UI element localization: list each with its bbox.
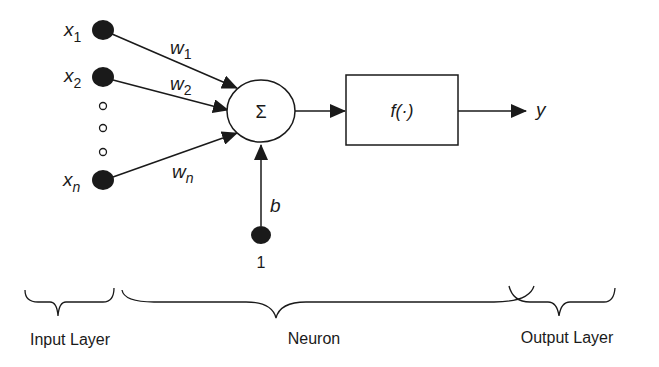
section-label-output: Output Layer [521,329,614,346]
ellipsis-dot [100,125,107,132]
ellipsis-dot [100,103,107,110]
neuron-diagram: x1 x2 xn w1 w2 wn Σ b 1 f(·) y Input Lay… [0,0,659,367]
brace-input-layer [25,288,114,316]
section-label-input: Input Layer [30,331,111,348]
input-node-n [92,170,114,190]
weight-label-1: w1 [170,37,192,62]
input-label-n: xn [62,169,81,195]
output-label: y [534,99,547,120]
bias-label: b [270,195,281,216]
bias-input-label: 1 [257,254,266,271]
brace-output-layer [509,286,615,316]
input-node-1 [92,20,114,40]
activation-label: f(·) [391,101,414,121]
input-label-1: x1 [63,19,82,45]
summation-symbol: Σ [255,102,266,122]
weight-label-n: wn [172,161,194,186]
brace-neuron [122,286,534,318]
ellipsis-dot [100,149,107,156]
bias-node [251,226,271,244]
input-label-2: x2 [63,65,82,91]
weight-label-2: w2 [170,73,192,98]
section-label-neuron: Neuron [288,330,340,347]
input-node-2 [92,67,114,87]
